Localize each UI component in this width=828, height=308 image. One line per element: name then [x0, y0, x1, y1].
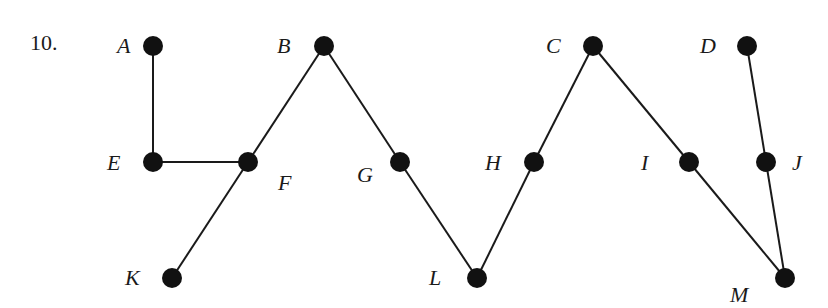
edge-D-J: [747, 46, 766, 162]
node-label-M: M: [729, 282, 750, 307]
node-K: [162, 268, 182, 288]
node-label-L: L: [428, 265, 441, 290]
node-A: [143, 36, 163, 56]
node-E: [143, 152, 163, 172]
node-I: [679, 152, 699, 172]
node-label-B: B: [277, 33, 290, 58]
node-label-E: E: [106, 150, 121, 175]
node-F: [238, 152, 258, 172]
node-label-J: J: [792, 150, 803, 175]
edge-F-K: [172, 162, 248, 278]
node-label-F: F: [277, 170, 292, 195]
edge-L-H: [477, 162, 534, 278]
node-label-C: C: [546, 33, 561, 58]
edge-H-C: [534, 46, 593, 162]
node-B: [314, 36, 334, 56]
node-label-K: K: [124, 265, 141, 290]
edge-J-M: [766, 162, 785, 278]
node-C: [583, 36, 603, 56]
node-J: [756, 152, 776, 172]
graph-diagram: ABCDEFGHIJKLM: [0, 0, 828, 308]
node-label-H: H: [484, 150, 502, 175]
node-label-D: D: [699, 33, 716, 58]
edge-B-G: [324, 46, 400, 162]
node-M: [775, 268, 795, 288]
edge-F-B: [248, 46, 324, 162]
edge-I-M: [689, 162, 785, 278]
node-H: [524, 152, 544, 172]
node-label-I: I: [640, 150, 650, 175]
node-L: [467, 268, 487, 288]
graph-labels: ABCDEFGHIJKLM: [106, 33, 803, 307]
node-G: [390, 152, 410, 172]
node-label-G: G: [357, 162, 373, 187]
graph-nodes: [143, 36, 795, 288]
edge-G-L: [400, 162, 477, 278]
node-label-A: A: [115, 33, 131, 58]
node-D: [737, 36, 757, 56]
edge-C-I: [593, 46, 689, 162]
